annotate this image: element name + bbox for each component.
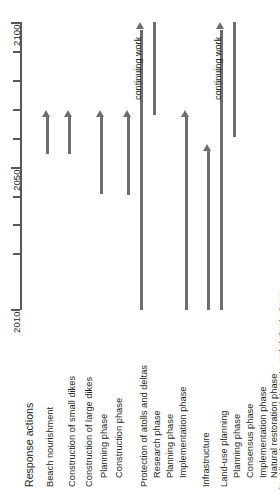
row-label-beach-nourishment: Beach nourishment (46, 407, 55, 487)
arrowhead-atolls-research (136, 22, 144, 29)
axis-spine (20, 22, 22, 310)
axis-label-2050: 2050 (11, 169, 22, 191)
row-label-landuse-planning-phase: Planning phase (233, 414, 242, 478)
bar-infrastructure (185, 117, 188, 310)
page-title: Response actions (24, 403, 35, 487)
annotation-continuing-work-2: continuing work (214, 37, 223, 100)
arrowhead-atolls-planning (123, 110, 131, 117)
row-label-atolls-research-phase: Research phase (153, 410, 162, 478)
axis-tick-2040 (13, 196, 20, 198)
arrowhead-construction-small-dikes (42, 110, 50, 117)
axis-label-2100: 2100 (11, 24, 22, 46)
axis-tick-2100 (11, 22, 20, 24)
axis-tick-2050 (11, 167, 20, 169)
bar-landuse-consensus (207, 151, 210, 310)
row-label-landuse-consensus-phase: Consensus phase (246, 404, 255, 478)
axis-tick-2010 (11, 309, 20, 311)
axis-tick-2020 (13, 253, 20, 255)
row-label-land-use-planning: Land-use planning (220, 410, 229, 487)
bar-landuse-implementation (233, 22, 236, 137)
arrowhead-large-dikes-construction (96, 110, 104, 117)
row-label-large-dikes-planning-phase: Planning phase (100, 414, 109, 478)
axis-label-2010: 2010 (11, 311, 22, 333)
arrowhead-landuse-planning (216, 22, 224, 29)
arrowhead-large-dikes-planning (64, 110, 72, 117)
bar-construction-small-dikes (46, 117, 49, 154)
arrowhead-landuse-consensus (203, 144, 211, 151)
row-label-atolls-implementation-phase: Implementation phase (179, 387, 188, 478)
row-label-protection-atolls-deltas: Protection of atolls and deltas (140, 365, 149, 487)
annotation-continuing-work-1: continuing work (134, 37, 143, 100)
axis-tick-2070 (13, 109, 20, 111)
arrowhead-infrastructure (181, 110, 189, 117)
bar-atolls-planning (127, 117, 130, 195)
row-label-construction-large-dikes: Construction of large dikes (85, 377, 94, 487)
axis-tick-2080 (13, 80, 20, 82)
bar-atolls-implementation (153, 22, 156, 115)
bar-large-dikes-construction (100, 117, 103, 194)
axis-tick-2030 (13, 224, 20, 226)
row-label-infrastructure: Infrastructure (202, 432, 211, 487)
bar-large-dikes-planning (68, 117, 71, 154)
row-label-landuse-implementation-phase: Implementation phase (259, 387, 268, 478)
row-label-large-dikes-construction-phase: Construction phase (115, 398, 124, 478)
figure-caption: Lead times for response strategies to co… (278, 289, 280, 489)
row-label-atolls-planning-phase: Planning phase (166, 414, 175, 478)
row-label-construction-small-dikes: Construction of small dikes (68, 376, 77, 487)
axis-tick-2060 (13, 138, 20, 140)
timeline-chart: 2100 2050 2010 continuing work continuin… (0, 0, 280, 491)
axis-tick-2090 (13, 51, 20, 53)
